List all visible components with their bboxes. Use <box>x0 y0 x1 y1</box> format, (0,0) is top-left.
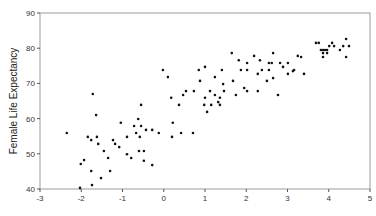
data-point <box>170 97 173 100</box>
data-point <box>209 90 212 93</box>
data-point <box>279 62 282 65</box>
plot-frame <box>40 13 370 189</box>
data-point <box>217 101 220 104</box>
data-point <box>328 45 331 48</box>
x-tick-label: -3 <box>36 194 44 203</box>
y-axis-ticks: 405060708090 <box>26 9 40 194</box>
y-tick-label: 90 <box>26 9 35 18</box>
data-point <box>345 38 348 41</box>
data-point <box>83 159 86 162</box>
data-point <box>331 42 334 45</box>
data-point <box>210 104 213 107</box>
y-axis-title: Female Life Expectancy <box>8 48 19 155</box>
data-point <box>133 125 136 128</box>
data-point <box>345 56 348 59</box>
data-point <box>145 129 148 132</box>
data-point <box>135 132 138 135</box>
data-point <box>151 164 154 167</box>
data-point <box>138 150 141 153</box>
data-point <box>120 122 123 125</box>
data-point <box>203 104 206 107</box>
x-tick-label: -1 <box>119 194 127 203</box>
data-point <box>126 136 129 139</box>
data-point <box>223 90 226 93</box>
data-point <box>95 114 98 117</box>
x-tick-label: 0 <box>162 194 167 203</box>
data-point <box>271 62 274 65</box>
y-tick-label: 80 <box>26 44 35 53</box>
data-point <box>318 42 321 45</box>
data-point <box>232 80 235 83</box>
data-point <box>268 69 271 72</box>
data-point <box>204 66 207 69</box>
data-point <box>143 150 146 153</box>
data-point <box>90 170 93 173</box>
data-point <box>219 104 222 107</box>
data-point <box>137 118 140 121</box>
data-point <box>172 122 175 125</box>
data-point <box>112 139 115 142</box>
data-point <box>259 59 262 62</box>
y-tick-label: 40 <box>26 185 35 194</box>
data-point <box>91 184 94 187</box>
data-point <box>287 62 290 65</box>
data-point <box>140 125 143 128</box>
data-point <box>139 136 142 139</box>
x-tick-label: -2 <box>78 194 86 203</box>
data-point <box>240 69 243 72</box>
data-point <box>90 139 93 142</box>
data-point <box>178 104 181 107</box>
data-point <box>300 56 303 59</box>
data-point <box>140 104 143 107</box>
data-point <box>322 56 325 59</box>
x-tick-label: 4 <box>327 194 332 203</box>
data-point <box>198 69 201 72</box>
data-point <box>97 143 100 146</box>
data-point <box>287 73 290 76</box>
data-point <box>326 49 329 52</box>
data-point <box>342 45 345 48</box>
data-point <box>268 62 271 65</box>
data-point <box>219 97 222 100</box>
data-point <box>257 90 260 93</box>
data-point <box>118 146 121 149</box>
data-point <box>277 94 280 97</box>
x-tick-label: 3 <box>285 194 290 203</box>
data-point <box>221 69 224 72</box>
data-point <box>315 42 318 45</box>
data-point <box>171 136 174 139</box>
data-point <box>109 170 112 173</box>
data-point <box>143 160 146 163</box>
data-point <box>103 150 106 153</box>
data-point <box>185 90 188 93</box>
data-point <box>293 69 296 72</box>
y-tick-label: 70 <box>26 79 35 88</box>
data-point <box>180 132 183 135</box>
data-point <box>243 87 246 90</box>
data-point <box>96 136 99 139</box>
data-point <box>92 93 95 96</box>
data-point <box>126 153 129 156</box>
data-point <box>303 73 306 76</box>
data-point <box>266 80 269 83</box>
data-point <box>297 55 300 58</box>
data-point <box>151 129 154 132</box>
data-point <box>114 143 117 146</box>
data-point <box>167 76 170 79</box>
data-point <box>348 45 351 48</box>
y-tick-label: 60 <box>26 115 35 124</box>
data-point <box>261 69 264 72</box>
data-point <box>204 97 207 100</box>
data-point <box>257 73 260 76</box>
data-point <box>66 132 69 135</box>
data-point <box>87 136 90 139</box>
x-tick-label: 5 <box>368 194 373 203</box>
data-point <box>333 45 336 48</box>
data-point <box>326 52 329 55</box>
data-point <box>107 157 110 160</box>
data-point <box>282 66 285 69</box>
data-point <box>193 90 196 93</box>
data-point <box>246 69 249 72</box>
data-point <box>339 49 342 52</box>
data-point <box>235 94 238 97</box>
